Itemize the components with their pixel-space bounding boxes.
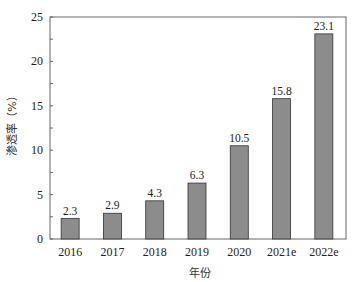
bar — [188, 183, 206, 239]
bar — [230, 146, 248, 239]
x-tick-label: 2019 — [185, 245, 209, 259]
bar — [273, 99, 291, 239]
bar — [61, 219, 79, 239]
y-axis-title: 渗透率（%） — [5, 90, 19, 155]
y-tick-label: 15 — [31, 99, 43, 113]
x-tick-label: 2022e — [309, 245, 338, 259]
x-tick-label: 2017 — [100, 245, 124, 259]
x-tick-label: 2018 — [143, 245, 167, 259]
bar — [146, 201, 164, 239]
x-axis-title: 年份 — [189, 266, 211, 280]
plot-area: 05101520252.320162.920174.320186.3201910… — [5, 10, 346, 280]
data-label: 6.3 — [190, 169, 205, 181]
data-label: 2.9 — [105, 199, 120, 211]
data-label: 23.1 — [314, 20, 334, 32]
data-label: 10.5 — [229, 132, 249, 144]
y-tick-label: 25 — [31, 10, 43, 24]
data-label: 15.8 — [272, 85, 292, 97]
data-label: 2.3 — [63, 205, 78, 217]
data-label: 4.3 — [148, 187, 163, 199]
y-tick-label: 0 — [37, 232, 43, 246]
bar-chart: 05101520252.320162.920174.320186.3201910… — [0, 0, 356, 282]
x-tick-label: 2016 — [58, 245, 82, 259]
bar — [103, 213, 121, 239]
x-tick-label: 2020 — [227, 245, 251, 259]
y-tick-label: 20 — [31, 54, 43, 68]
y-tick-label: 5 — [37, 188, 43, 202]
x-tick-label: 2021e — [267, 245, 296, 259]
y-tick-label: 10 — [31, 143, 43, 157]
bar — [315, 34, 333, 239]
